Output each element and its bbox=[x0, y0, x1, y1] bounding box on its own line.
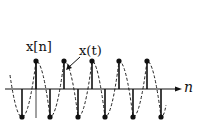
discrete-signal-label: x[n] bbox=[26, 40, 52, 53]
samples-positive bbox=[34, 59, 149, 89]
n-axis-arrow-icon bbox=[175, 87, 182, 92]
xt-pointer-line bbox=[69, 57, 80, 67]
samples-negative bbox=[20, 89, 163, 119]
axis-variable-label: n bbox=[184, 80, 193, 94]
sampling-diagram bbox=[0, 0, 200, 128]
continuous-signal-label: x(t) bbox=[79, 44, 102, 57]
